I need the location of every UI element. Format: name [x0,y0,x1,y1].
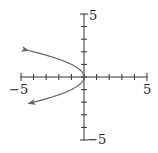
x-min-label: −5 [9,82,28,97]
y-max-label: 5 [89,8,97,23]
y-min-label: −5 [87,132,106,147]
x-max-label: 5 [143,82,151,97]
chart: −5 5 5 −5 [0,0,158,153]
